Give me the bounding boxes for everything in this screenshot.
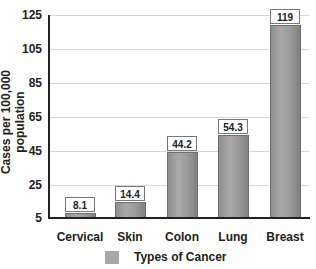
x-tick: Skin xyxy=(100,230,160,244)
y-tick: 25 xyxy=(10,178,42,192)
value-label: 54.3 xyxy=(218,119,248,134)
y-tick: 125 xyxy=(10,8,42,22)
y-tick: 85 xyxy=(10,76,42,90)
y-tick: 5 xyxy=(10,211,42,225)
x-tick: Lung xyxy=(203,230,263,244)
value-label: 14.4 xyxy=(115,186,145,201)
bar-colon xyxy=(167,152,198,218)
y-tick: 65 xyxy=(10,110,42,124)
y-tick: 45 xyxy=(10,144,42,158)
value-label: 8.1 xyxy=(65,197,95,212)
x-tick: Breast xyxy=(255,230,315,244)
bar-lung xyxy=(218,135,249,218)
y-axis xyxy=(48,15,50,219)
bar-skin xyxy=(115,202,146,218)
legend-label: Types of Cancer xyxy=(134,250,226,264)
legend-swatch xyxy=(105,251,119,264)
x-axis xyxy=(48,217,310,219)
y-tick: 105 xyxy=(10,42,42,56)
value-label: 119 xyxy=(270,9,300,24)
bar-breast xyxy=(270,25,301,218)
value-label: 44.2 xyxy=(167,136,197,151)
